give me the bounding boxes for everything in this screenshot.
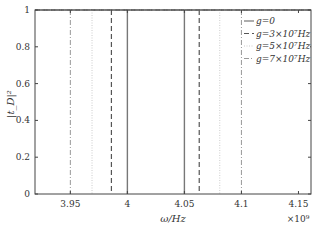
y-tick-label: 0.8 [16,42,31,52]
y-tick-label: 1 [24,5,30,15]
x-axis-multiplier: ×10⁹ [287,214,310,224]
legend-entry: g=5×10⁷Hz [256,41,310,51]
x-axis-label: ω/Hz [160,213,186,224]
x-tick-label: 4.1 [234,199,248,209]
legend-entry: g=0 [256,16,275,26]
y-axis-label: |t_D|² [5,90,17,118]
y-tick-label: 0.2 [16,152,30,162]
legend: g=0g=3×10⁷Hzg=5×10⁷Hzg=7×10⁷Hz [242,14,310,68]
x-tick-label: 4.15 [288,199,308,209]
y-tick-label: 0 [24,189,30,199]
x-tick-label: 4 [125,199,131,209]
legend-entry: g=3×10⁷Hz [256,29,310,39]
legend-entry: g=7×10⁷Hz [256,54,310,64]
x-tick-label: 4.05 [174,199,194,209]
transmission-chart: 3.9544.054.14.1500.20.40.60.81 ω/Hz ×10⁹… [0,0,316,228]
y-tick-label: 0.4 [16,115,31,125]
x-tick-label: 3.95 [60,199,80,209]
y-tick-label: 0.6 [16,79,31,89]
